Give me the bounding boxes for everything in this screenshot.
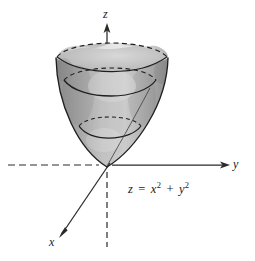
axis-x-arrowhead	[59, 227, 68, 238]
equation-term2-exponent: 2	[185, 180, 190, 190]
axis-label-y: y	[233, 158, 238, 170]
paraboloid-figure: z y x z = x2 + y2	[0, 0, 255, 261]
axis-x-positive	[66, 163, 110, 228]
axis-label-x: x	[49, 236, 54, 248]
equation-relation: =	[137, 182, 147, 196]
equation-annotation: z = x2 + y2	[128, 182, 190, 197]
equation-lhs: z	[128, 182, 133, 196]
equation-plus: +	[165, 182, 175, 196]
figure-canvas	[0, 0, 255, 261]
axis-label-z: z	[103, 8, 108, 20]
equation-term1-exponent: 2	[157, 180, 162, 190]
